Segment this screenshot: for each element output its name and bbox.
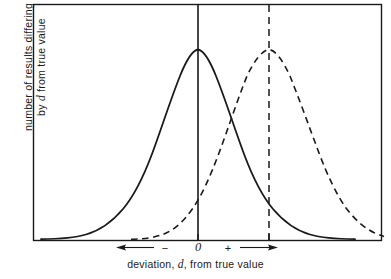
negative-direction-arrow [116, 244, 154, 250]
x-axis-label-suffix: , from true value [184, 258, 264, 270]
chart-canvas [0, 0, 391, 279]
biased-distribution-curve [131, 50, 384, 240]
x-axis-label-prefix: deviation, [127, 258, 178, 270]
axis-mark-negative: − [157, 241, 173, 255]
axis-mark-positive: + [220, 241, 236, 255]
figure-container: number of results differing by d from tr… [0, 0, 391, 279]
positive-direction-arrow [240, 244, 278, 250]
axis-mark-zero: 0 [190, 240, 206, 254]
x-axis-label: deviation, d, from true value [0, 258, 391, 270]
plot-frame [34, 5, 382, 241]
